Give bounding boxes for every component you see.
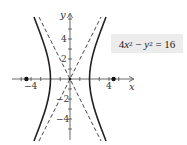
- x-tick-label-4: 4: [106, 81, 112, 91]
- equation-rhs: = 16: [153, 38, 176, 50]
- focus-point-right: [111, 77, 115, 81]
- hyperbola-graph: −4 4 4 2 −2 −4 x y: [0, 0, 187, 145]
- x-axis-label: x: [129, 81, 135, 92]
- y-tick-label-4: 4: [61, 34, 67, 44]
- equation-label: 4x2 − y2 = 16: [111, 34, 183, 53]
- y-tick-label-2: 2: [61, 54, 67, 64]
- equation-minus: −: [133, 38, 145, 50]
- y-tick-label-neg4: −4: [56, 114, 70, 124]
- origin-point: [69, 78, 72, 81]
- x-tick-label-neg4: −4: [24, 81, 38, 91]
- y-tick-label-neg2: −2: [56, 94, 69, 104]
- y-axis-label: y: [59, 9, 66, 20]
